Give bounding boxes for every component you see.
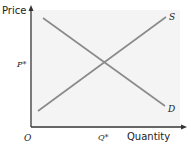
equilibrium-price-label: P* [16, 60, 26, 69]
y-axis-arrow-icon [29, 5, 34, 11]
origin-label: O [24, 133, 32, 143]
plot-area [32, 10, 180, 126]
supply-demand-diagram: Price Quantity O P* Q* S D [0, 0, 191, 149]
x-axis-label: Quantity [127, 131, 170, 142]
x-axis-arrow-icon [181, 125, 187, 130]
supply-label: S [169, 12, 175, 22]
y-axis-label: Price [2, 5, 26, 16]
demand-label: D [167, 104, 175, 114]
equilibrium-quantity-label: Q* [98, 133, 109, 142]
